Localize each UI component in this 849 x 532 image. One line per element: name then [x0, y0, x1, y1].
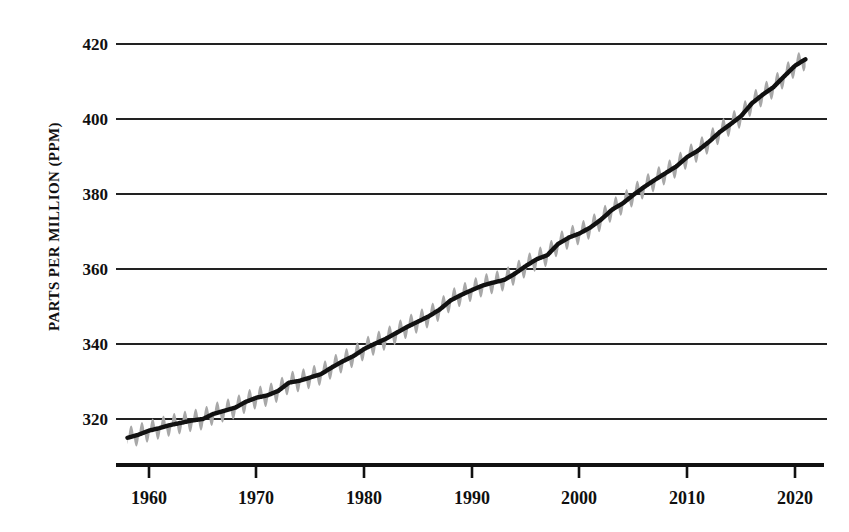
- y-tick-label-360: 360: [83, 260, 109, 279]
- x-axis: [116, 465, 824, 478]
- y-tick-label-380: 380: [83, 185, 109, 204]
- co2-keeling-curve-chart: PARTS PER MILLION (PPM) 420 400 380 360 …: [0, 0, 849, 532]
- trend-line-series: [127, 59, 805, 437]
- y-tick-label-400: 400: [83, 110, 109, 129]
- plot-area: 420 400 380 360 340 320 1960: [0, 0, 849, 532]
- x-tick-label-1970: 1970: [238, 488, 274, 508]
- x-tick-label-2000: 2000: [561, 488, 597, 508]
- y-tick-label-340: 340: [83, 335, 109, 354]
- x-tick-label-1980: 1980: [346, 488, 382, 508]
- gridlines: [116, 44, 827, 419]
- y-tick-label-420: 420: [83, 35, 109, 54]
- y-axis-tick-labels: 420 400 380 360 340 320: [83, 35, 109, 429]
- seasonal-oscillation-series: [127, 52, 805, 446]
- x-tick-label-1960: 1960: [131, 488, 167, 508]
- x-tick-label-1990: 1990: [454, 488, 490, 508]
- x-axis-tick-labels: 1960 1970 1980 1990 2000 2010 2020: [131, 488, 813, 508]
- x-tick-label-2010: 2010: [669, 488, 705, 508]
- y-tick-label-320: 320: [83, 410, 109, 429]
- x-tick-label-2020: 2020: [777, 488, 813, 508]
